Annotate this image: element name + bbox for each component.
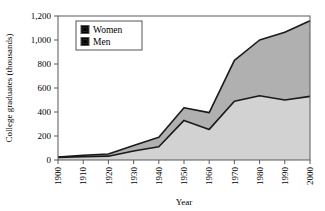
y-axis: 02004006008001,0001,200 [31, 11, 58, 165]
y-tick-label: 400 [38, 107, 52, 117]
y-tick-label: 200 [38, 131, 52, 141]
legend-swatch-women-inner [83, 28, 87, 32]
x-tick-label: 1980 [255, 167, 265, 186]
legend-label-men: Men [93, 37, 111, 47]
chart-figure: 02004006008001,0001,200 1900191019201930… [0, 0, 325, 211]
legend: Women Men [76, 21, 142, 50]
y-axis-title: College graduates (thousands) [4, 34, 14, 143]
x-tick-label: 1950 [179, 167, 189, 186]
x-tick-label: 1970 [230, 167, 240, 186]
area-chart-canvas: 02004006008001,0001,200 1900191019201930… [0, 0, 325, 211]
x-tick-label: 1990 [280, 167, 290, 186]
x-tick-label: 1900 [53, 167, 63, 186]
x-tick-label: 1930 [129, 167, 139, 186]
x-axis-title: Year [176, 197, 193, 207]
x-tick-label: 1920 [104, 167, 114, 186]
x-axis: 1900191019201930194019501960197019801990… [53, 160, 315, 185]
y-tick-label: 1,200 [31, 11, 52, 21]
x-tick-label: 1910 [78, 167, 88, 186]
y-tick-label: 800 [38, 59, 52, 69]
y-tick-label: 0 [47, 155, 52, 165]
x-tick-label: 1960 [204, 167, 214, 186]
x-tick-label: 1940 [154, 167, 164, 186]
y-tick-label: 600 [38, 83, 52, 93]
legend-swatch-men-inner [83, 40, 87, 44]
x-tick-label: 2000 [305, 167, 315, 186]
legend-label-women: Women [93, 25, 123, 35]
y-tick-label: 1,000 [31, 35, 52, 45]
